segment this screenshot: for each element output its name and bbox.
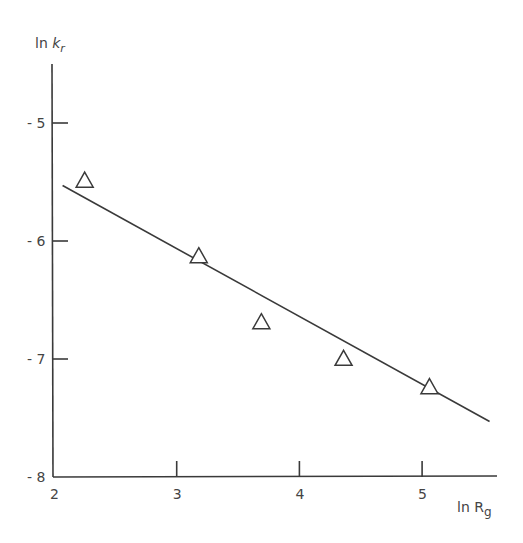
x-axis-line xyxy=(53,476,497,477)
triangle-marker xyxy=(253,314,270,329)
y-tick-label: - 5 xyxy=(27,115,45,131)
y-axis-title: ln kr xyxy=(35,35,66,55)
triangle-marker xyxy=(76,172,93,187)
triangle-marker xyxy=(335,350,352,365)
triangle-marker xyxy=(190,248,207,263)
y-axis-line xyxy=(52,64,53,477)
x-tick-label: 4 xyxy=(295,486,304,502)
data-markers xyxy=(76,172,438,394)
y-tick-label: - 7 xyxy=(27,351,45,367)
y-tick-label: - 6 xyxy=(27,233,46,249)
y-tick-label: - 8 xyxy=(27,469,45,485)
ticks: - 5- 6- 7- 82345 xyxy=(27,115,427,502)
x-tick-label: 2 xyxy=(50,486,59,502)
x-tick-label: 5 xyxy=(418,486,427,502)
scatter-chart: - 5- 6- 7- 82345 ln kr ln Rg xyxy=(0,0,523,543)
x-tick-label: 3 xyxy=(173,486,182,502)
triangle-marker xyxy=(421,379,438,394)
x-axis-title: ln Rg xyxy=(457,499,492,519)
axes xyxy=(52,64,497,477)
